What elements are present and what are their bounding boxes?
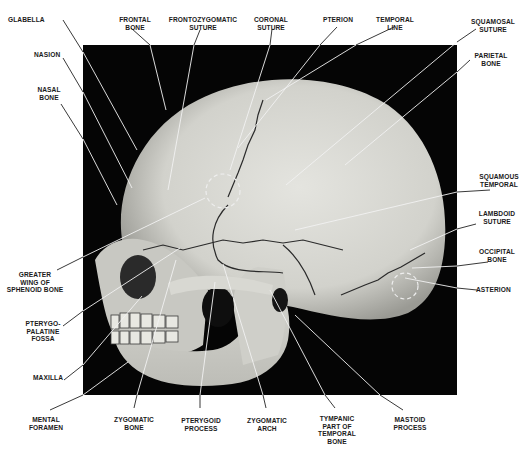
label-coronal-suture: CORONAL SUTURE bbox=[245, 16, 297, 31]
label-nasal-bone: NASAL BONE bbox=[34, 86, 64, 101]
label-zygomatic-arch: ZYGOMATIC ARCH bbox=[240, 417, 294, 432]
label-zygomatic-bone: ZYGOMATIC BONE bbox=[106, 416, 162, 431]
label-squamous-temporal: SQUAMOUS TEMPORAL bbox=[470, 173, 528, 188]
label-frontal-bone: FRONTAL BONE bbox=[112, 16, 158, 31]
label-occipital-bone: OCCIPITAL BONE bbox=[470, 248, 524, 263]
label-mastoid-process: MASTOID PROCESS bbox=[388, 416, 432, 431]
label-frontozygomatic-suture: FRONTOZYGOMATIC SUTURE bbox=[160, 16, 246, 31]
label-lambdoid-suture: LAMBDOID SUTURE bbox=[470, 210, 524, 225]
label-squamosal-suture: SQUAMOSAL SUTURE bbox=[462, 18, 524, 33]
label-pterion: PTERION bbox=[316, 16, 360, 24]
label-nasion: NASION bbox=[34, 51, 60, 59]
label-maxilla: MAXILLA bbox=[33, 374, 63, 382]
label-glabella: GLABELLA bbox=[8, 16, 45, 24]
leader-lines bbox=[0, 0, 528, 454]
label-pterygopalatine-fossa: PTERYGO- PALATINE FOSSA bbox=[20, 320, 66, 343]
label-mental-foramen: MENTAL FORAMEN bbox=[26, 416, 66, 431]
label-pterygoid-process: PTERYGOID PROCESS bbox=[178, 417, 224, 432]
label-asterion: ASTERION bbox=[476, 286, 511, 294]
label-greater-wing-sphenoid: GREATER WING OF SPHENOID BONE bbox=[4, 271, 66, 294]
label-parietal-bone: PARIETAL BONE bbox=[466, 52, 516, 67]
label-temporal-line: TEMPORAL LINE bbox=[370, 16, 420, 31]
skull-diagram: GLABELLA FRONTAL BONE FRONTOZYGOMATIC SU… bbox=[0, 0, 528, 454]
label-tympanic-part-temporal-bone: TYMPANIC PART OF TEMPORAL BONE bbox=[314, 415, 360, 445]
